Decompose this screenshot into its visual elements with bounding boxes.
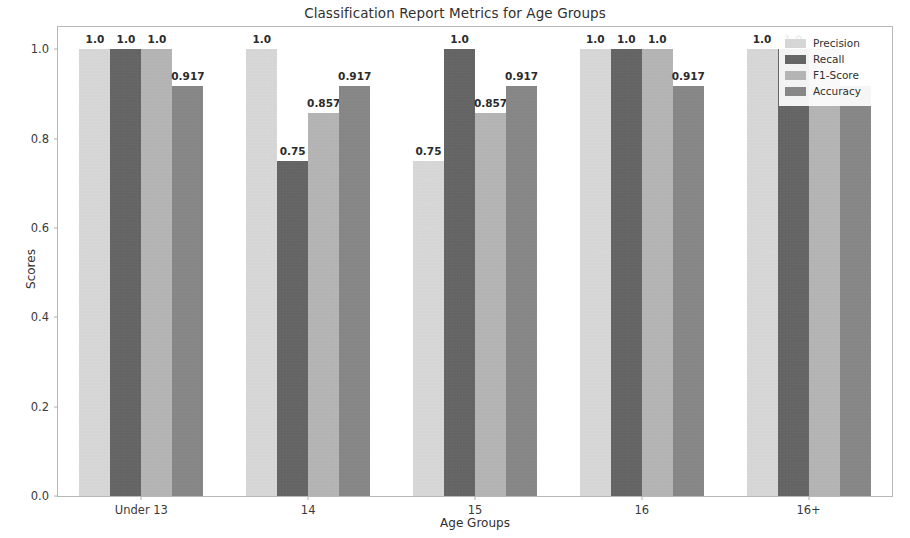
bar-texture — [611, 49, 642, 496]
chart-title: Classification Report Metrics for Age Gr… — [0, 5, 910, 21]
bar-value-label: 0.75 — [280, 145, 306, 157]
bar-value-label: 1.0 — [252, 33, 271, 45]
legend-swatch-texture — [785, 55, 806, 64]
bar-value-label: 0.917 — [672, 70, 705, 82]
x-axis-tick-label: 16 — [634, 503, 649, 517]
bar-value-label: 0.857 — [307, 97, 340, 109]
bar-texture — [141, 49, 172, 496]
bar-value-label: 0.917 — [338, 70, 371, 82]
legend-item-recall: Recall — [785, 52, 881, 67]
bar-texture — [277, 161, 308, 496]
bar-value-label: 1.0 — [148, 33, 167, 45]
legend-swatch-texture — [785, 71, 806, 80]
bar-texture — [172, 86, 203, 496]
bars-layer: 1.01.01.00.9171.00.750.8570.9170.751.00.… — [58, 27, 892, 496]
bar-texture — [809, 49, 840, 496]
bar-texture — [339, 86, 370, 496]
legend-label: Accuracy — [813, 86, 861, 97]
plot-area: 1.01.01.00.9171.00.750.8570.9170.751.00.… — [57, 26, 893, 497]
bar-texture — [580, 49, 611, 496]
y-axis-tick-mark — [54, 406, 58, 407]
bar-f1-score-15: 0.857 — [475, 113, 506, 496]
bar-accuracy-under-13: 0.917 — [172, 86, 203, 496]
chart-figure: Classification Report Metrics for Age Gr… — [0, 0, 910, 538]
bar-texture — [308, 113, 339, 496]
x-axis-tick-label: Under 13 — [115, 503, 168, 517]
bar-texture — [246, 49, 277, 496]
bar-texture — [747, 49, 778, 496]
bar-value-label: 1.0 — [753, 33, 772, 45]
bar-precision-15: 0.75 — [413, 161, 444, 496]
x-axis-tick-label: 15 — [468, 503, 483, 517]
bar-recall-under-13: 1.0 — [110, 49, 141, 496]
x-axis-tick-mark — [308, 496, 309, 500]
y-axis-tick-mark — [54, 138, 58, 139]
legend-label: Precision — [813, 38, 860, 49]
bar-value-label: 0.917 — [505, 70, 538, 82]
bar-recall-16-: 1.0 — [778, 49, 809, 496]
bar-precision-16-: 1.0 — [747, 49, 778, 496]
legend-item-precision: Precision — [785, 36, 881, 51]
bar-value-label: 1.0 — [586, 33, 605, 45]
bar-precision-under-13: 1.0 — [79, 49, 110, 496]
x-axis-tick-label: 16+ — [796, 503, 820, 517]
bar-f1-score-14: 0.857 — [308, 113, 339, 496]
legend-swatch-texture — [785, 39, 806, 48]
x-axis-tick-mark — [641, 496, 642, 500]
x-axis-tick-mark — [475, 496, 476, 500]
x-axis-label: Age Groups — [57, 516, 893, 530]
bar-texture — [778, 49, 809, 496]
bar-texture — [79, 49, 110, 496]
bar-texture — [642, 49, 673, 496]
bar-precision-14: 1.0 — [246, 49, 277, 496]
bar-f1-score-16: 1.0 — [642, 49, 673, 496]
bar-texture — [413, 161, 444, 496]
bar-value-label: 1.0 — [617, 33, 636, 45]
y-axis-tick-mark — [54, 228, 58, 229]
legend-swatch — [785, 87, 806, 96]
x-axis-tick-mark — [808, 496, 809, 500]
bar-texture — [840, 86, 871, 496]
bar-value-label: 1.0 — [86, 33, 105, 45]
y-axis-tick-mark — [54, 49, 58, 50]
x-axis-tick-label: 14 — [301, 503, 316, 517]
bar-f1-score-under-13: 1.0 — [141, 49, 172, 496]
y-axis-label: Scores — [24, 249, 38, 289]
bar-accuracy-15: 0.917 — [506, 86, 537, 496]
legend-item-accuracy: Accuracy — [785, 84, 881, 99]
bar-texture — [475, 113, 506, 496]
bar-accuracy-16- — [840, 86, 871, 496]
bar-f1-score-16- — [809, 49, 840, 496]
legend-item-f1-score: F1-Score — [785, 68, 881, 83]
chart-legend: PrecisionRecallF1-ScoreAccuracy — [779, 31, 887, 106]
y-axis-tick-mark — [54, 496, 58, 497]
bar-texture — [444, 49, 475, 496]
legend-label: F1-Score — [813, 70, 859, 81]
y-axis-tick-mark — [54, 317, 58, 318]
bar-texture — [110, 49, 141, 496]
bar-value-label: 1.0 — [648, 33, 667, 45]
bar-precision-16: 1.0 — [580, 49, 611, 496]
bar-accuracy-16: 0.917 — [673, 86, 704, 496]
bar-recall-15: 1.0 — [444, 49, 475, 496]
bar-value-label: 1.0 — [450, 33, 469, 45]
bar-value-label: 0.857 — [474, 97, 507, 109]
bar-accuracy-14: 0.917 — [339, 86, 370, 496]
legend-swatch — [785, 39, 806, 48]
bar-value-label: 0.917 — [171, 70, 204, 82]
bar-texture — [506, 86, 537, 496]
legend-swatch — [785, 55, 806, 64]
bar-value-label: 1.0 — [117, 33, 136, 45]
legend-swatch-texture — [785, 87, 806, 96]
bar-recall-16: 1.0 — [611, 49, 642, 496]
x-axis-tick-mark — [141, 496, 142, 500]
legend-swatch — [785, 71, 806, 80]
bar-recall-14: 0.75 — [277, 161, 308, 496]
bar-texture — [673, 86, 704, 496]
bar-value-label: 0.75 — [416, 145, 442, 157]
legend-label: Recall — [813, 54, 844, 65]
